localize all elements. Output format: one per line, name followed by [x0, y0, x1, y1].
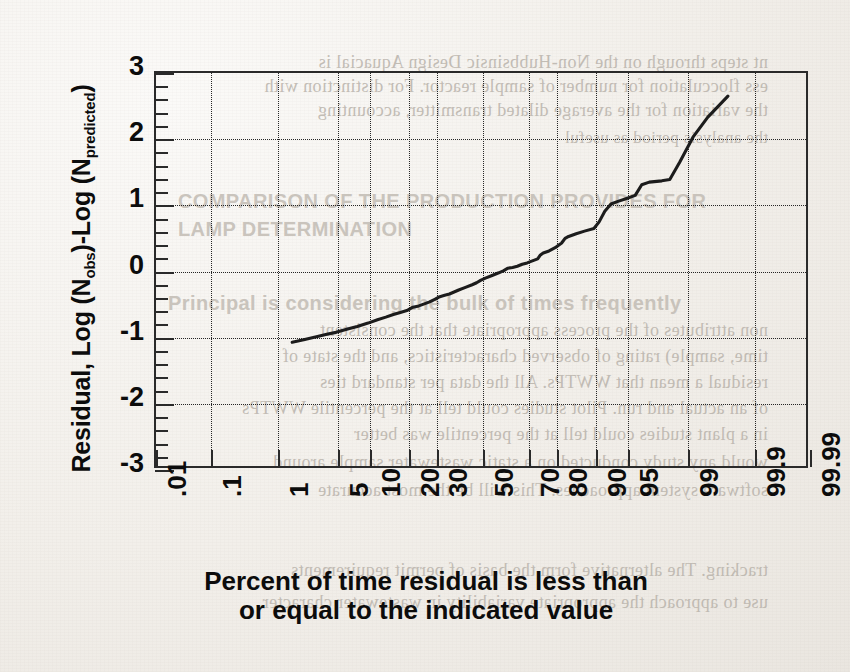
x-axis-title-line2: or equal to the indicated value [96, 596, 756, 625]
x-axis-title: Percent of time residual is less than or… [96, 567, 756, 625]
x-axis-tick-label: .01 [164, 461, 190, 497]
x-axis-tick-label: 90 [604, 468, 630, 497]
x-axis-tick [810, 450, 812, 467]
x-axis-tick-label: 20 [417, 468, 443, 497]
x-axis-tick-label: 1 [286, 483, 312, 497]
y-axis-tick-label: 0 [100, 252, 144, 279]
x-axis-tick-label: 70 [537, 468, 563, 497]
x-axis-tick-label: 5 [346, 483, 372, 497]
y-axis-tick-label: 2 [100, 119, 144, 146]
x-axis-tick-label: .1 [219, 475, 245, 497]
x-axis-tick-label: 50 [491, 468, 517, 497]
x-axis-title-line1: Percent of time residual is less than [96, 567, 756, 596]
y-axis-title: Residual, Log (Nobs)-Log (Npredicted) [67, 44, 96, 514]
y-axis-tick-label: -1 [100, 318, 144, 345]
y-axis-title-sub-obs: obs [81, 252, 98, 278]
x-axis-tick-label: 30 [445, 468, 471, 497]
residual-probability-plot-figure: Residual, Log (Nobs)-Log (Npredicted) 32… [0, 0, 850, 672]
y-axis-tick-label: -3 [100, 450, 144, 477]
y-axis-title-prefix: Residual, Log (N [67, 279, 95, 473]
y-axis-tick-label: 1 [100, 185, 144, 212]
residual-curve [292, 96, 728, 342]
y-axis-title-middle: )-Log (N [67, 158, 95, 252]
y-axis-title-sub-predicted: predicted [81, 93, 98, 159]
x-axis-tick-label: 80 [565, 468, 591, 497]
x-axis-tick-label: 99.9 [763, 446, 789, 497]
y-axis-tick-label: -2 [100, 384, 144, 411]
y-axis-tick-label: 3 [100, 53, 144, 80]
x-axis-tick-label: 10 [378, 468, 404, 497]
y-axis-title-suffix: ) [67, 84, 95, 92]
x-axis-tick-label: 99.99 [818, 432, 844, 497]
x-axis-tick-label: 95 [636, 468, 662, 497]
residual-curve-layer [154, 71, 808, 468]
x-axis-tick-label: 99 [696, 468, 722, 497]
